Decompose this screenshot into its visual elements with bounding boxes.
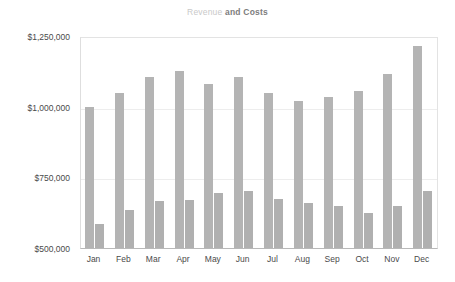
x-axis-tick-label-sep: Sep: [325, 254, 340, 264]
x-axis-tick-label-mar: Mar: [146, 254, 161, 264]
y-axis-tick-label: $750,000: [0, 173, 70, 183]
bar-costs-aug: [304, 203, 313, 248]
bar-group: [81, 38, 111, 248]
y-axis-tick-label: $1,250,000: [0, 32, 70, 42]
chart-title-part-revenue: Revenue: [187, 7, 222, 17]
bar-revenue-jun: [234, 77, 243, 248]
bar-costs-jun: [244, 191, 253, 248]
bar-revenue-jan: [85, 107, 94, 248]
bar-group: [290, 38, 320, 248]
bar-revenue-apr: [175, 71, 184, 248]
bar-group: [409, 38, 439, 248]
bar-group: [111, 38, 141, 248]
bar-costs-oct: [364, 213, 373, 248]
bar-chart: Revenue and Costs $500,000$750,000$1,000…: [0, 0, 455, 282]
plot-area: [80, 37, 438, 249]
bar-revenue-sep: [324, 97, 333, 248]
bar-costs-jul: [274, 199, 283, 248]
bar-costs-mar: [155, 201, 164, 248]
bar-revenue-aug: [294, 101, 303, 248]
bar-revenue-feb: [115, 93, 124, 248]
bar-revenue-dec: [413, 46, 422, 248]
y-axis-tick-label: $1,000,000: [0, 103, 70, 113]
bar-revenue-nov: [383, 74, 392, 248]
bar-group: [200, 38, 230, 248]
bar-revenue-may: [204, 84, 213, 248]
bar-group: [260, 38, 290, 248]
x-axis-tick-label-jun: Jun: [236, 254, 250, 264]
bar-costs-may: [214, 193, 223, 248]
x-axis-tick-label-nov: Nov: [384, 254, 399, 264]
x-axis-tick-label-jan: Jan: [87, 254, 101, 264]
bars-layer: [81, 38, 437, 248]
bar-group: [141, 38, 171, 248]
bar-group: [350, 38, 380, 248]
x-axis-tick-label-dec: Dec: [414, 254, 429, 264]
x-axis-tick-label-aug: Aug: [295, 254, 310, 264]
x-axis-tick-label-feb: Feb: [116, 254, 131, 264]
bar-costs-jan: [95, 224, 104, 248]
bar-costs-dec: [423, 191, 432, 248]
bar-costs-feb: [125, 210, 134, 248]
bar-costs-apr: [185, 200, 194, 248]
x-axis-tick-label-may: May: [205, 254, 221, 264]
x-axis-tick-label-apr: Apr: [176, 254, 189, 264]
bar-revenue-jul: [264, 93, 273, 248]
bar-group: [379, 38, 409, 248]
x-axis-tick-label-oct: Oct: [355, 254, 368, 264]
chart-title: Revenue and Costs: [0, 7, 455, 17]
bar-group: [171, 38, 201, 248]
bar-costs-nov: [393, 206, 402, 248]
chart-title-part-and-costs: and Costs: [225, 7, 268, 17]
y-axis-tick-label: $500,000: [0, 244, 70, 254]
bar-group: [320, 38, 350, 248]
x-axis-tick-label-jul: Jul: [267, 254, 278, 264]
bar-revenue-mar: [145, 77, 154, 248]
bar-revenue-oct: [354, 91, 363, 248]
bar-group: [230, 38, 260, 248]
bar-costs-sep: [334, 206, 343, 248]
